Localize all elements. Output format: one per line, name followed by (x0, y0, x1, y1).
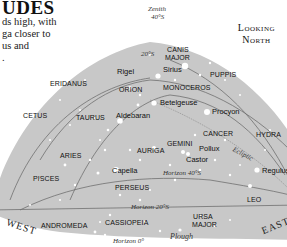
constellation-gemini: GEMINI (167, 140, 193, 148)
zenith-label: Zenith (148, 5, 166, 13)
asterism-plough: Plough (170, 233, 193, 241)
constellation-cetus: CETUS (23, 112, 47, 120)
intro-line: us and (2, 40, 122, 52)
constellation-canis-major: CANIS (167, 46, 189, 54)
star-castor: Castor (186, 156, 208, 164)
star-aldebaran: Aldebaran (116, 112, 150, 120)
horizon-0-label: Horizon 0° (113, 237, 144, 245)
zenith-value: 40°S (151, 13, 164, 21)
constellation-ursa-major-2: MAJOR (192, 221, 217, 229)
star-regulus: Regulus (262, 167, 287, 175)
constellation-cassiopeia: CASSIOPEIA (105, 219, 148, 227)
arc-20s-label: 20°S (141, 50, 154, 58)
intro-line: . (2, 52, 122, 64)
constellation-perseus: PERSEUS (115, 184, 149, 192)
constellation-canis-major-2: MAJOR (165, 54, 190, 62)
star-pollux: Pollux (199, 145, 219, 153)
constellation-puppis: PUPPIS (210, 71, 236, 79)
horizon-20s-label: Horizon 20°S (131, 203, 169, 211)
constellation-leo: LEO (247, 196, 261, 204)
looking-line-1: Looking (238, 22, 275, 34)
constellation-andromeda: ANDROMEDA (41, 222, 87, 230)
constellation-taurus: TAURUS (76, 114, 105, 122)
constellation-auriga: AURIGA (137, 147, 164, 155)
intro-line: ds high, with (2, 16, 122, 28)
constellation-aries: ARIES (60, 152, 82, 160)
star-rigel: Rigel (117, 68, 134, 76)
constellation-eridanus: ERIDANUS (50, 80, 87, 88)
star-sirius: Sirius (163, 66, 182, 74)
constellation-hydra: HYDRA (256, 131, 281, 139)
intro-text: ds high, with ga closer to us and . (2, 16, 122, 64)
looking-line-2: North (238, 34, 275, 46)
intro-line: ga closer to (2, 28, 122, 40)
constellation-cancer: CANCER (203, 130, 233, 138)
star-betelgeuse: Betelgeuse (160, 99, 198, 107)
looking-north-label: Looking North (238, 22, 275, 46)
constellation-monoceros: MONOCEROS (163, 84, 211, 92)
constellation-pisces: PISCES (33, 175, 59, 183)
constellation-ursa-major: URSA (193, 213, 213, 221)
star-procyon: Procyon (212, 108, 240, 116)
star-capella: Capella (112, 167, 137, 175)
horizon-40s-label: Horizon 40°S (163, 169, 201, 177)
constellation-orion: ORION (119, 86, 142, 94)
